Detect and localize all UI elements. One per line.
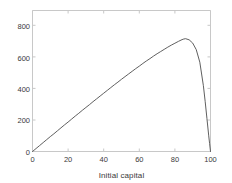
plot-area xyxy=(32,10,211,152)
x-axis-ticks xyxy=(33,11,211,152)
y-tick-label: 200 xyxy=(4,116,30,125)
x-axis-title-wrap: Initial capital xyxy=(32,164,211,182)
x-tick-label: 20 xyxy=(64,155,72,164)
y-tick-label: 400 xyxy=(4,84,30,93)
x-tick-label: 40 xyxy=(100,155,108,164)
x-tick-label: 80 xyxy=(171,155,179,164)
data-series-line xyxy=(33,39,211,152)
x-tick-label: 60 xyxy=(135,155,143,164)
chart-figure: 0200400600800 020406080100 Expected dura… xyxy=(0,0,232,183)
y-tick-label: 800 xyxy=(4,22,30,31)
axes-and-curve xyxy=(32,10,211,152)
x-tick-label: 0 xyxy=(30,155,34,164)
y-axis-ticks xyxy=(33,25,211,151)
axis-frame-lines xyxy=(33,11,211,152)
y-tick-label: 0 xyxy=(4,147,30,156)
x-axis-title: Initial capital xyxy=(99,171,145,180)
y-tick-label-group: 0200400600800 xyxy=(0,0,30,183)
y-tick-label: 600 xyxy=(4,53,30,62)
x-tick-label: 100 xyxy=(204,155,217,164)
